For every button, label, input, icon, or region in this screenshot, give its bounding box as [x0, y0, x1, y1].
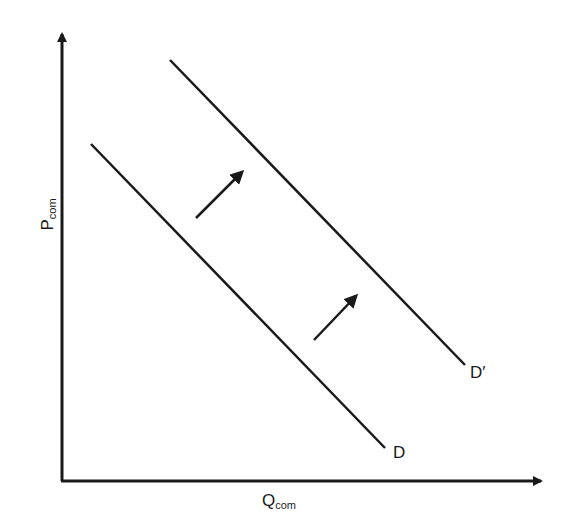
demand-shift-diagram [0, 0, 570, 532]
demand-curve-d-prime [170, 60, 465, 365]
x-axis-label-sub: com [275, 499, 296, 511]
y-axis-label: Pcom [39, 195, 58, 235]
y-axis-label-sub: com [46, 198, 58, 219]
y-axis-label-main: P [38, 219, 57, 230]
curve-label-d: D [393, 444, 405, 461]
x-axis-label: Qcom [262, 492, 296, 511]
demand-curve-d [91, 144, 385, 448]
x-axis-label-main: Q [262, 491, 275, 510]
shift-arrow-icon [196, 172, 242, 218]
curve-label-d-prime: D′ [470, 364, 485, 381]
shift-arrow-icon [314, 296, 356, 340]
